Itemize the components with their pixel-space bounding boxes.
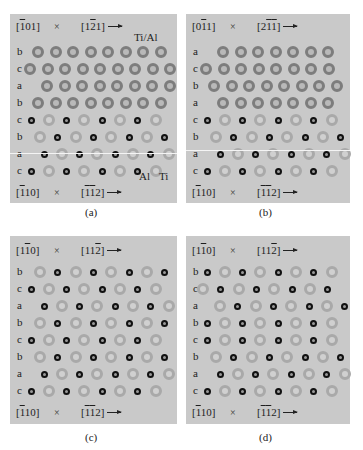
al-atom-icon [54, 134, 61, 141]
al-atom-icon [134, 117, 141, 124]
ti-al-atom-icon [235, 46, 247, 58]
header-zone-axis: [011] [192, 20, 215, 32]
times-symbol: × [54, 187, 60, 198]
ti-al-atom-icon [50, 97, 62, 109]
al-atom-icon [41, 303, 48, 310]
al-atom-icon [28, 168, 35, 175]
al-atom-icon [306, 303, 313, 310]
stacking-layer-label: a [17, 367, 22, 379]
al-atom-icon [239, 388, 246, 395]
ti-atom-icon [43, 334, 55, 346]
ti-atom-icon [105, 131, 117, 143]
ti-al-atom-icon [94, 63, 106, 75]
panel-caption-d: (d) [259, 431, 272, 443]
ti-al-atom-icon [235, 97, 247, 109]
ti-atom-icon [127, 368, 139, 380]
ti-atom-icon [214, 300, 226, 312]
al-atom-icon [41, 151, 48, 158]
header-direction: [112] [81, 244, 121, 256]
ti-atom-icon [254, 385, 266, 397]
ti-atom-icon [163, 300, 175, 312]
ti-atom-icon [70, 266, 82, 278]
header-direction: [211] [257, 20, 297, 32]
ti-atom-icon [326, 334, 338, 346]
ti-al-atom-icon [67, 46, 79, 58]
ti-al-atom-icon [200, 63, 212, 75]
ti-al-atom-icon [32, 97, 44, 109]
al-atom-icon [239, 337, 246, 344]
ti-atom-icon [219, 317, 231, 329]
stacking-layer-label: b [17, 316, 23, 328]
ti-atom-icon [105, 317, 117, 329]
al-atom-icon [90, 269, 97, 276]
al-atom-icon [126, 134, 133, 141]
footer-direction: [112] [81, 406, 121, 418]
ti-atom-icon [105, 351, 117, 363]
footer-zone-axis: [110] [16, 406, 39, 418]
stacking-layer-label: b [17, 96, 23, 108]
al-atom-icon [63, 388, 70, 395]
al-atom-icon [310, 388, 317, 395]
ti-atom-icon [34, 351, 46, 363]
ti-al-atom-icon [102, 97, 114, 109]
al-atom-icon [275, 320, 282, 327]
stacking-layer-label: c [193, 113, 198, 125]
ti-al-atom-icon [296, 80, 308, 92]
al-atom-icon [28, 286, 35, 293]
ti-atom-icon [114, 114, 126, 126]
ti-al-atom-icon [243, 80, 255, 92]
panel-c: [110]×[112][110]×[112]bcabcbac [10, 236, 177, 424]
stacking-layer-label: c [17, 333, 22, 345]
ti-atom-icon [233, 283, 245, 295]
ti-al-atom-icon [278, 80, 290, 92]
al-atom-icon [324, 286, 331, 293]
al-atom-icon [90, 320, 97, 327]
ti-atom-icon [254, 317, 266, 329]
ti-atom-icon [163, 148, 175, 160]
ti-atom-icon [267, 368, 279, 380]
ti-atom-icon [91, 300, 103, 312]
ti-al-atom-icon [164, 80, 176, 92]
stacking-layer-label: a [17, 299, 22, 311]
al-atom-icon [310, 117, 317, 124]
arrow-right-icon [283, 250, 297, 251]
al-atom-icon [253, 286, 260, 293]
stacking-layer-label: b [17, 45, 23, 57]
al-atom-icon [217, 371, 224, 378]
header-direction: [112] [257, 244, 297, 256]
ti-atom-icon [141, 351, 153, 363]
al-atom-icon [217, 151, 224, 158]
al-atom-icon [134, 286, 141, 293]
stacking-layer-label: b [193, 130, 199, 142]
al-atom-icon [112, 371, 119, 378]
al-atom-icon [204, 388, 211, 395]
ti-atom-icon [127, 148, 139, 160]
ti-atom-icon [163, 368, 175, 380]
stacking-layer-label: c [193, 164, 198, 176]
ti-al-atom-icon [270, 63, 282, 75]
ti-al-atom-icon [261, 80, 273, 92]
al-atom-icon [217, 286, 224, 293]
stacking-layer-label: b [17, 130, 23, 142]
stacking-layer-label: c [17, 62, 22, 74]
ti-atom-icon [210, 131, 222, 143]
ti-al-atom-icon [94, 80, 106, 92]
ti-atom-icon [303, 368, 315, 380]
ti-atom-icon [281, 351, 293, 363]
panel-caption-a: (a) [85, 206, 97, 218]
ti-atom-icon [326, 266, 338, 278]
ti-atom-icon [141, 131, 153, 143]
al-atom-icon [90, 354, 97, 361]
arrow-right-icon [108, 26, 122, 27]
al-atom-icon [204, 320, 211, 327]
header-zone-axis: [110] [16, 244, 39, 256]
footer-direction: [112] [257, 406, 297, 418]
panel-b: [011]×[211][110]×[112]acbacbac [186, 14, 350, 203]
header-zone-axis: [101] [16, 20, 40, 32]
arrow-right-icon [107, 192, 121, 193]
ti-atom-icon [43, 165, 55, 177]
al-atom-icon [28, 337, 35, 344]
al-atom-icon [266, 134, 273, 141]
al-atom-icon [204, 269, 211, 276]
footer-zone-axis: [110] [192, 406, 215, 418]
